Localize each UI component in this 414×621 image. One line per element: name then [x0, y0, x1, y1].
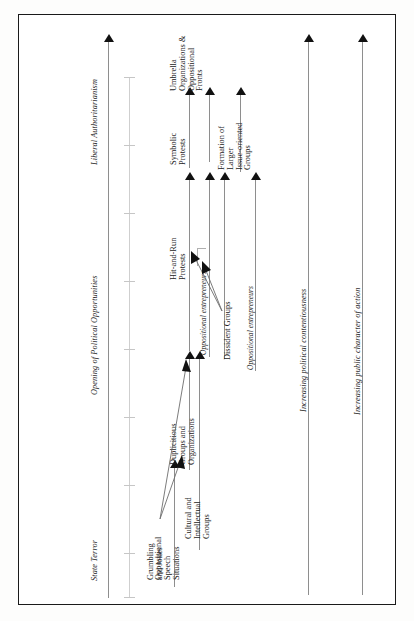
figure-frame: State Terror Opening of Political Opport… [18, 14, 396, 605]
stage-line: Fronts [196, 36, 205, 91]
stage-line: Groups [244, 123, 253, 170]
stage-symbolic-protests: Symbolic Protests [170, 133, 188, 165]
arrow-symbolic-protests [189, 94, 190, 168]
arrow-umbrella-organizations [209, 94, 210, 162]
stage-line: Dissident Groups [224, 302, 233, 360]
axis-political-contentiousness: Increasing political contentiousness [299, 289, 309, 412]
stage-dissident-groups: Dissident Groups [224, 302, 233, 360]
connector-entrepreneurs-to-protests [19, 15, 397, 606]
stage-umbrella-organizations: Umbrella Organizations & Oppositional Fr… [170, 36, 205, 91]
stage-line: Protests [179, 133, 188, 165]
axis-public-character: Increasing public character of action [353, 287, 363, 415]
actor-oppositional-entrepreneurs-2: Oppositional entrepreneurs [247, 286, 256, 370]
figure-page: State Terror Opening of Political Opport… [0, 0, 414, 621]
stage-formation-larger: Formation of Larger Issue-oriented Group… [218, 123, 253, 170]
